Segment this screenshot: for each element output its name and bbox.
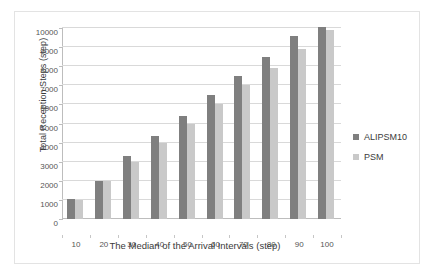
x-axis-tick-mark bbox=[62, 235, 63, 238]
legend-item-label: ALIPSM10 bbox=[364, 132, 407, 142]
legend-swatch-icon bbox=[353, 154, 359, 160]
bar-group bbox=[202, 28, 230, 219]
x-axis-tick-mark bbox=[285, 235, 286, 238]
bar bbox=[270, 68, 278, 219]
bar bbox=[290, 36, 298, 219]
legend-item[interactable]: PSM bbox=[353, 152, 419, 162]
bar-group bbox=[146, 28, 174, 219]
bar bbox=[242, 85, 250, 219]
bar bbox=[298, 49, 306, 219]
bar-group bbox=[229, 28, 257, 219]
bar bbox=[179, 116, 187, 219]
x-axis-title: The Median of the Arrival Intervals (ste… bbox=[45, 240, 345, 251]
bar bbox=[131, 162, 139, 219]
bar-group bbox=[118, 28, 146, 219]
x-axis-tick-mark bbox=[202, 235, 203, 238]
legend-item[interactable]: ALIPSM10 bbox=[353, 132, 419, 142]
x-axis-tick-mark bbox=[118, 235, 119, 238]
y-axis-tick-labels: 0100020003000400050006000700080009000100… bbox=[15, 28, 58, 219]
bar bbox=[75, 200, 83, 219]
x-axis-tick-mark bbox=[146, 235, 147, 238]
bar bbox=[326, 30, 334, 219]
bar bbox=[234, 76, 242, 219]
chart-frame: Total Reception Steps (step) 01000200030… bbox=[14, 11, 420, 264]
x-axis-tick-mark bbox=[90, 235, 91, 238]
bar bbox=[262, 57, 270, 219]
bar bbox=[103, 181, 111, 219]
legend-swatch-icon bbox=[353, 134, 359, 140]
bar bbox=[318, 27, 326, 219]
bar bbox=[207, 95, 215, 219]
bar bbox=[187, 124, 195, 220]
bar-group bbox=[313, 28, 341, 219]
bar-group bbox=[90, 28, 118, 219]
bar bbox=[123, 156, 131, 219]
x-axis-tick-mark bbox=[174, 235, 175, 238]
x-axis-tick-mark bbox=[313, 235, 314, 238]
bar-group bbox=[62, 28, 90, 219]
x-axis-tick-mark bbox=[341, 235, 342, 238]
x-axis-tick-mark bbox=[229, 235, 230, 238]
bar-group bbox=[174, 28, 202, 219]
bar-group bbox=[285, 28, 313, 219]
chart-legend: ALIPSM10PSM bbox=[353, 132, 419, 172]
bar bbox=[215, 104, 223, 219]
x-axis-tick-mark bbox=[257, 235, 258, 238]
plot-area: 102030405060708090100 bbox=[62, 28, 341, 219]
bar bbox=[159, 143, 167, 219]
legend-item-label: PSM bbox=[364, 152, 384, 162]
bar bbox=[95, 181, 103, 219]
bar-group bbox=[257, 28, 285, 219]
bar bbox=[67, 199, 75, 219]
bar bbox=[151, 136, 159, 219]
